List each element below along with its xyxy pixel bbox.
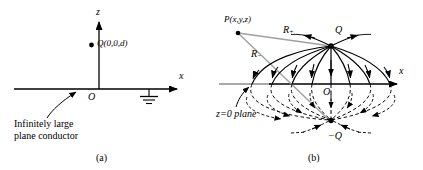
panel-b: P(x,y,z) R+ R− Q −Q O x z=0 plane (b) bbox=[211, 0, 423, 170]
conductor-label-line1: Infinitely large bbox=[14, 118, 74, 130]
image-charge-label: −Q bbox=[328, 130, 342, 142]
image-charge-dot bbox=[328, 118, 333, 123]
charge-label: Q bbox=[335, 24, 342, 36]
origin-label: O bbox=[88, 91, 95, 103]
caption-b: (b) bbox=[308, 152, 320, 163]
figure-container: z x O Q(0,0,d) Infinitely large plane co… bbox=[0, 0, 423, 170]
x-axis-label: x bbox=[399, 65, 403, 77]
point-charge-dot bbox=[328, 43, 333, 48]
r-plus-subscript: + bbox=[289, 28, 294, 36]
point-charge-dot bbox=[89, 43, 94, 48]
distance-plus-label: R+ bbox=[283, 24, 294, 36]
x-axis-label: x bbox=[179, 70, 183, 82]
field-lines-lower bbox=[251, 84, 391, 120]
conductor-leader-line bbox=[47, 92, 76, 118]
panel-a: z x O Q(0,0,d) Infinitely large plane co… bbox=[0, 0, 211, 170]
conductor-label-line2: plane conductor bbox=[14, 130, 78, 142]
panel-b-drawing bbox=[211, 0, 423, 170]
origin-label: O bbox=[323, 86, 330, 98]
r-minus-subscript: − bbox=[257, 52, 262, 60]
field-lines-upper bbox=[252, 46, 390, 84]
plane-label: z=0 plane bbox=[216, 108, 256, 120]
ground-icon bbox=[140, 89, 158, 104]
panel-a-drawing bbox=[0, 0, 211, 170]
field-point-dot bbox=[236, 31, 241, 36]
z-axis-label: z bbox=[96, 6, 100, 18]
distance-minus-label: R− bbox=[251, 48, 262, 60]
plane-label-text: z=0 plane bbox=[216, 108, 256, 119]
charge-label: Q(0,0,d) bbox=[97, 38, 128, 48]
caption-a: (a) bbox=[96, 152, 107, 163]
field-arrows-lower bbox=[246, 93, 395, 119]
field-point-label: P(x,y,z) bbox=[224, 14, 251, 24]
